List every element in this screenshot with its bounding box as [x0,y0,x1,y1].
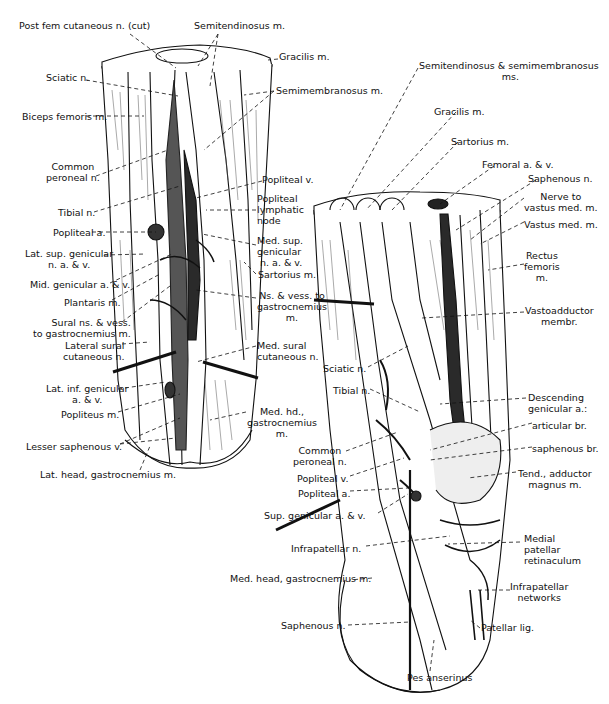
label-tend-adductor-magnus: Tend., adductor magnus m. [518,468,592,490]
label-vastus-med: Vastus med. m. [524,219,598,230]
label-articular-br: articular br. [532,420,587,431]
label-descending-genicular: Descending genicular a.: [528,392,587,414]
label-sup-genicular: Sup. genicular a. & v. [264,510,365,521]
label-semitendinosus-semimembranosus: Semitendinosus & semimembranosus ms. [419,60,599,82]
label-infrapatellar-n: Infrapatellar n. [291,543,361,554]
label-medial-patellar-retinaculum: Medial patellar retinaculum [524,533,581,566]
label-lesser-saphenous: Lesser saphenous v. [26,441,122,452]
label-sural-ns-vess: Sural ns. & vess. to gastrocnemius m. [33,317,131,339]
label-gracilis-right: Gracilis m. [434,106,484,117]
label-sciatic: Sciatic n. [46,72,89,83]
label-ns-vess-gastrocnemius: Ns. & vess. to gastrocnemius m. [257,290,327,323]
label-plantaris: Plantaris m. [64,297,121,308]
label-infrapatellar-networks: Infrapatellar networks [510,581,568,603]
label-femoral-a-v: Femoral a. & v. [482,159,553,170]
label-saphenous-n-top: Saphenous n. [528,173,593,184]
label-patellar-lig: Patellar lig. [481,622,534,633]
label-rectus-femoris: Rectus femoris m. [524,250,560,283]
label-saphenous-br: saphenous br. [532,443,599,454]
right-leg-medial [276,192,510,693]
label-semimembranosus: Semimembranosus m. [276,85,383,96]
label-popliteus: Popliteus m. [61,409,119,420]
label-popliteal-a: Popliteal a. [53,227,105,238]
label-lateral-sural-cutaneous: Lateral sural cutaneous n. [63,340,125,362]
label-semitendinosus: Semitendinosus m. [194,20,285,31]
label-sciatic-right: Sciatic n. [323,363,366,374]
label-tibial: Tibial n. [58,207,95,218]
label-popliteal-lymphatic-node: Popliteal lymphatic node [257,193,304,226]
label-popliteal-a-right: Popliteal a. [298,488,350,499]
label-sartorius-right: Sartorius m. [451,136,509,147]
label-mid-genicular: Mid. genicular a. & v. [30,279,130,290]
label-common-peroneal: Common peroneal n. [46,161,100,183]
label-sartorius: Sartorius m. [258,269,316,280]
anatomical-figure: Post fem cutaneous n. (cut) Semitendinos… [0,0,609,704]
label-lat-inf-genicular: Lat. inf. genicular a. & v. [46,383,128,405]
label-popliteal-v: Popliteal v. [262,174,313,185]
label-lat-sup-genicular: Lat. sup. genicular n. a. & v. [25,248,113,270]
label-med-hd-gastrocnemius: Med. hd., gastrocnemius m. [247,406,317,439]
label-lat-head-gastrocnemius: Lat. head, gastrocnemius m. [40,469,176,480]
label-med-sup-genicular: Med. sup. genicular n. a. & v. [257,235,303,268]
label-med-sural-cutaneous: Med. sural cutaneous n. [257,340,319,362]
label-common-peroneal-right: Common peroneal n. [293,445,347,467]
label-biceps-femoris: Biceps femoris m. [22,111,107,122]
label-post-fem-cutaneous: Post fem cutaneous n. (cut) [19,20,150,31]
label-tibial-right: Tibial n. [333,385,370,396]
label-pes-anserinus: Pes anserinus [407,672,472,683]
label-popliteal-v-right: Popliteal v. [297,473,348,484]
label-nerve-vastus-med: Nerve to vastus med. m. [524,191,598,213]
label-med-head-gastrocnemius-right: Med. head, gastrocnemius m. [230,573,371,584]
label-gracilis: Gracilis m. [279,51,329,62]
label-saphenous-n: Saphenous n. [281,620,346,631]
label-vastoadductor: Vastoadductor membr. [525,305,594,327]
